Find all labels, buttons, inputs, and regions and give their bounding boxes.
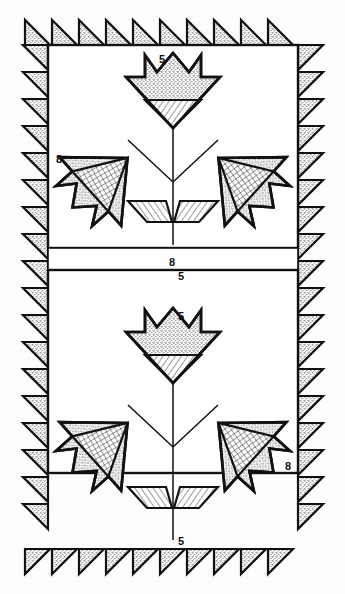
quilt-pattern-diagram: 5 5 8 8 5 5 8	[0, 0, 345, 594]
label-bottom-stem-5: 5	[178, 535, 184, 547]
label-top-stem-5: 5	[178, 270, 184, 282]
label-bottom-right-8: 8	[285, 460, 291, 472]
label-top-flower-5: 5	[159, 53, 165, 65]
label-center-sash-8: 8	[169, 256, 175, 268]
label-top-left-8: 8	[56, 153, 62, 165]
label-bottom-flower-5: 5	[178, 310, 184, 322]
quilt-diagram-canvas: 5 5 8 8 5 5 8	[0, 0, 345, 594]
